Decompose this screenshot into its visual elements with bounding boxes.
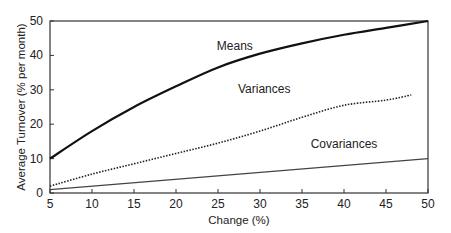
series-means-label: Means (217, 39, 253, 53)
x-tick-label: 35 (295, 197, 309, 211)
x-tick-label: 10 (85, 197, 99, 211)
x-axis-label: Change (%) (208, 214, 270, 226)
y-axis-label: Average Turnover (% per month) (15, 23, 27, 190)
x-tick-label: 25 (211, 197, 225, 211)
y-tick-label: 30 (30, 83, 44, 97)
line-chart: 510152025303540455001020304050Change (%)… (0, 0, 451, 233)
y-tick-label: 20 (30, 117, 44, 131)
x-tick-label: 5 (47, 197, 54, 211)
x-tick-label: 45 (379, 197, 393, 211)
x-tick-label: 40 (337, 197, 351, 211)
y-tick-label: 0 (36, 186, 43, 200)
series-covariances-line (50, 159, 428, 190)
y-tick-label: 40 (30, 48, 44, 62)
series-variances-label: Variances (238, 82, 290, 96)
series-covariances-label: Covariances (311, 137, 378, 151)
x-tick-label: 20 (169, 197, 183, 211)
y-tick-label: 50 (30, 14, 44, 28)
y-tick-label: 10 (30, 152, 44, 166)
x-tick-label: 30 (253, 197, 267, 211)
x-tick-label: 15 (127, 197, 141, 211)
x-tick-label: 50 (421, 197, 435, 211)
